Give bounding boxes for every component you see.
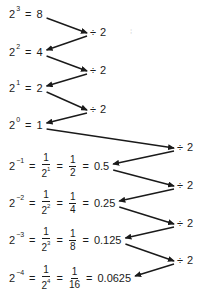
fraction-numerator: 1 xyxy=(69,155,77,167)
power-term: 21 xyxy=(9,82,20,94)
fraction-denominator: 23 xyxy=(42,239,51,253)
power-exponent: −4 xyxy=(16,269,24,276)
power-base: 2 xyxy=(9,234,15,246)
divide-by-label: ÷2 xyxy=(90,64,106,76)
equation-row: 2−1=121=12=0.5 xyxy=(9,154,109,178)
power-term: 22 xyxy=(9,46,20,58)
equation-row: 2−4=124=116=0.0625 xyxy=(9,266,131,290)
fraction: 123 xyxy=(42,227,51,253)
fraction-denominator: 24 xyxy=(42,277,51,291)
divide-symbol: ÷ xyxy=(90,26,96,38)
divisor-value: 2 xyxy=(187,179,193,191)
power-term: 2−1 xyxy=(9,160,24,172)
equals-sign: = xyxy=(56,272,62,284)
arrow-to-result xyxy=(47,74,87,86)
fraction-numerator: 1 xyxy=(42,190,50,202)
divisor-value: 2 xyxy=(100,64,106,76)
fraction-denominator: 22 xyxy=(42,202,51,216)
fraction-numerator: 1 xyxy=(42,227,50,239)
power-exponent: −3 xyxy=(16,231,24,238)
power-exponent: 1 xyxy=(16,79,20,86)
result-value: 0.0625 xyxy=(97,272,131,284)
equals-sign: = xyxy=(56,160,62,172)
equals-sign: = xyxy=(29,197,35,209)
arrow-to-divide xyxy=(47,129,174,148)
denominator-exponent: 4 xyxy=(47,278,50,284)
equation-row: 20=1 xyxy=(9,113,43,137)
power-base: 2 xyxy=(9,8,15,20)
equals-sign: = xyxy=(56,234,62,246)
fraction: 121 xyxy=(42,153,51,179)
result-value: 0.125 xyxy=(94,234,122,246)
divisor-value: 2 xyxy=(100,26,106,38)
fraction-numerator: 1 xyxy=(69,229,77,241)
divide-by-label: ÷2 xyxy=(90,103,106,115)
fraction-denominator: 16 xyxy=(69,279,80,290)
result-value: 1 xyxy=(36,119,42,131)
divide-by-label: ÷2 xyxy=(177,217,193,229)
arrow-to-divide xyxy=(47,92,87,110)
power-term: 23 xyxy=(9,8,20,20)
power-exponent: 2 xyxy=(16,43,20,50)
divide-symbol: ÷ xyxy=(177,254,183,266)
fraction-numerator: 1 xyxy=(71,267,79,279)
divide-symbol: ÷ xyxy=(90,103,96,115)
equation-row: 22=4 xyxy=(9,40,43,64)
denominator-exponent: 1 xyxy=(47,166,50,172)
fraction: 18 xyxy=(69,229,77,252)
fraction-denominator: 2 xyxy=(70,167,76,178)
result-value: 2 xyxy=(36,82,42,94)
arrow-to-divide xyxy=(47,18,87,33)
power-base: 2 xyxy=(9,272,15,284)
fraction: 124 xyxy=(42,265,51,291)
divide-by-label: ÷2 xyxy=(177,141,193,153)
fraction: 122 xyxy=(42,190,51,216)
equals-sign: = xyxy=(29,272,35,284)
power-term: 2−4 xyxy=(9,272,24,284)
equals-sign: = xyxy=(25,8,31,20)
equals-sign: = xyxy=(25,82,31,94)
divisor-value: 2 xyxy=(187,254,193,266)
result-value: 0.25 xyxy=(94,197,115,209)
fraction: 14 xyxy=(69,192,77,215)
fraction: 12 xyxy=(69,155,77,178)
fraction: 116 xyxy=(69,267,80,290)
equals-sign: = xyxy=(82,197,88,209)
fraction-numerator: 1 xyxy=(42,265,50,277)
power-base: 2 xyxy=(9,160,15,172)
divide-by-label: ÷2 xyxy=(177,179,193,191)
equals-sign: = xyxy=(56,197,62,209)
equation-row: 2−2=122=14=0.25 xyxy=(9,191,115,215)
power-base: 2 xyxy=(9,46,15,58)
divide-symbol: ÷ xyxy=(177,217,183,229)
power-exponent: 0 xyxy=(16,116,20,123)
divisor-value: 2 xyxy=(187,217,193,229)
denominator-exponent: 2 xyxy=(47,203,50,209)
divide-by-label: ÷2 xyxy=(177,254,193,266)
fraction-numerator: 1 xyxy=(69,192,77,204)
equation-row: 21=2 xyxy=(9,76,43,100)
equals-sign: = xyxy=(82,160,88,172)
arrow-to-divide xyxy=(47,56,87,71)
fraction-numerator: 1 xyxy=(42,153,50,165)
fraction-denominator: 4 xyxy=(70,204,76,215)
equals-sign: = xyxy=(25,46,31,58)
equals-sign: = xyxy=(29,234,35,246)
result-value: 8 xyxy=(36,8,42,20)
divisor-value: 2 xyxy=(100,103,106,115)
decorative-mark: ⁞ xyxy=(130,27,135,36)
arrow-to-divide xyxy=(125,244,174,261)
equals-sign: = xyxy=(25,119,31,131)
arrow-to-divide xyxy=(119,207,174,224)
power-term: 2−2 xyxy=(9,197,24,209)
power-exponent: 3 xyxy=(16,5,20,12)
equation-row: 2−3=123=18=0.125 xyxy=(9,228,121,252)
fraction-denominator: 21 xyxy=(42,165,51,179)
arrow-to-result xyxy=(119,189,174,201)
power-base: 2 xyxy=(9,82,15,94)
divide-symbol: ÷ xyxy=(90,64,96,76)
divide-by-label: ÷2 xyxy=(90,26,106,38)
power-base: 2 xyxy=(9,197,15,209)
arrow-to-result xyxy=(113,151,174,164)
result-value: 4 xyxy=(36,46,42,58)
